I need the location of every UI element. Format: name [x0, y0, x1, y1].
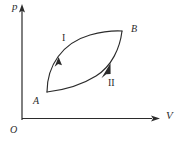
path-I-arrowhead-icon: [55, 57, 62, 67]
path-label-two: II: [108, 78, 115, 88]
v-axis: [22, 115, 160, 121]
diagram-canvas: [0, 0, 178, 143]
point-label-b: B: [131, 24, 137, 34]
p-axis-label: p: [12, 1, 18, 12]
p-axis: [19, 4, 25, 120]
path-label-one: I: [62, 33, 65, 43]
origin-label: O: [10, 125, 17, 135]
v-axis-label: V: [166, 110, 173, 121]
pv-diagram-figure: p V O A B I II: [0, 0, 178, 143]
point-label-a: A: [33, 96, 39, 106]
v-axis-arrowhead-icon: [151, 115, 160, 121]
